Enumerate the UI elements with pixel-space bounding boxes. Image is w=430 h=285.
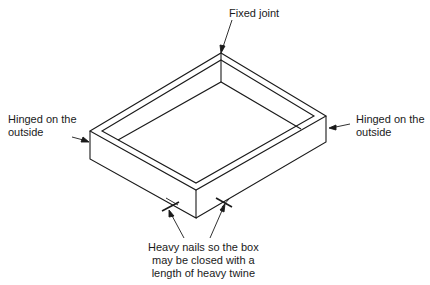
label-hinged-left: Hinged on the outside [8, 113, 77, 139]
label-heavy-nails: Heavy nails so the box may be closed wit… [148, 241, 259, 280]
box-inner-rim [102, 60, 314, 183]
box-floor-edges [118, 82, 301, 140]
box-outer-rim [90, 53, 326, 190]
box-right-side [196, 116, 326, 218]
label-hinged-right: Hinged on the outside [356, 113, 425, 139]
label-fixed-joint: Fixed joint [229, 7, 279, 20]
